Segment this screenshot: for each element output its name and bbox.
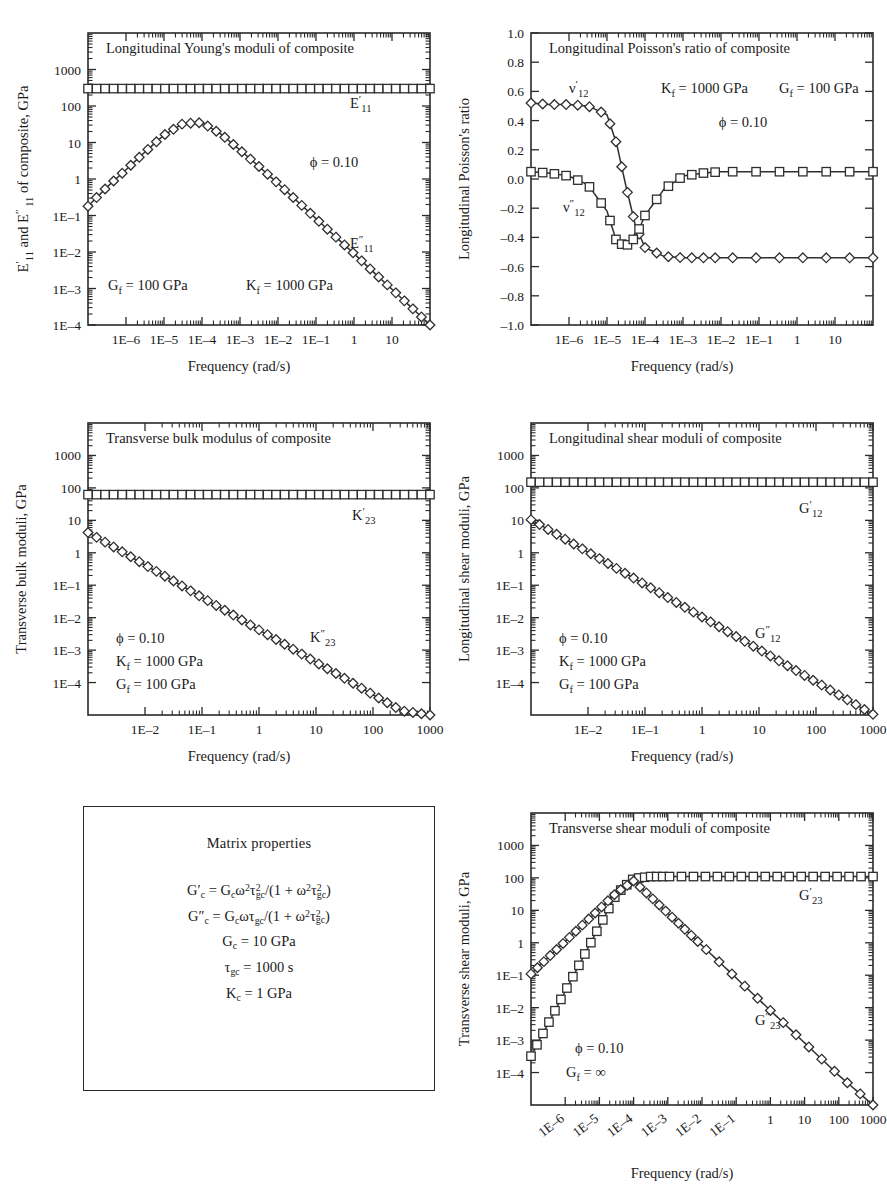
- data-point-marker: [562, 171, 570, 179]
- panel-transverse-bulk-modulus: 1E–21E–11101001000 10001001011E–11E–21E–…: [0, 390, 450, 780]
- svg-text:Longitudinal shear moduli, GPa: Longitudinal shear moduli, GPa: [456, 475, 472, 662]
- data-point-marker: [587, 478, 595, 486]
- panel-transverse-shear-moduli: 1E–61E–51E–41E–31E–21E–11101001000 10001…: [443, 780, 887, 1192]
- data-point-marker: [246, 84, 254, 92]
- x-tick-label: 1E–3: [226, 332, 255, 347]
- data-point-marker: [332, 84, 340, 92]
- data-point-marker: [400, 490, 408, 498]
- data-point-marker: [761, 872, 769, 880]
- data-point-marker: [797, 872, 805, 880]
- matrix-properties-box: Matrix properties G′c = Gcω2τ2gc/(1 + ω2…: [83, 806, 435, 1091]
- x-tick-label: 10: [828, 332, 842, 347]
- data-point-marker: [161, 84, 169, 92]
- data-point-marker: [715, 478, 723, 486]
- data-point-marker: [821, 872, 829, 880]
- data-point-marker: [857, 872, 865, 880]
- plot-title: Longitudinal shear moduli of composite: [549, 430, 782, 446]
- x-tick-label: 100: [363, 722, 384, 737]
- data-point-marker: [612, 478, 620, 486]
- data-point-marker: [280, 490, 288, 498]
- data-point-marker: [732, 478, 740, 486]
- data-point-marker: [340, 490, 348, 498]
- data-point-marker: [595, 478, 603, 486]
- y-tick-label: –0.2: [499, 201, 524, 216]
- data-point-marker: [229, 490, 237, 498]
- x-tick-label: 1E–1: [745, 332, 774, 347]
- data-point-marker: [84, 84, 92, 92]
- data-point-marker: [366, 84, 374, 92]
- x-axis-title: Frequency (rad/s): [188, 358, 291, 375]
- y-axis-title: Transverse shear moduli, GPa: [456, 871, 472, 1046]
- plot-svg: 1E–61E–51E–41E–31E–21E–1110 1.00.80.60.4…: [443, 0, 887, 390]
- data-point-marker: [728, 168, 736, 176]
- data-point-marker: [860, 478, 868, 486]
- data-point-marker: [822, 168, 830, 176]
- x-tick-label: 1E–2: [672, 1111, 704, 1140]
- y-tick-label: 1E–4: [496, 676, 525, 691]
- svg-text:Transverse shear moduli, GPa: Transverse shear moduli, GPa: [456, 871, 472, 1046]
- y-tick-label: 1: [517, 546, 524, 561]
- data-point-marker: [638, 478, 646, 486]
- y-tick-label: 1000: [54, 63, 81, 78]
- data-point-marker: [550, 170, 558, 178]
- data-point-marker: [332, 490, 340, 498]
- data-point-marker: [706, 478, 714, 486]
- x-tick-label: 10: [385, 332, 399, 347]
- data-point-marker: [127, 84, 135, 92]
- data-point-marker: [818, 478, 826, 486]
- y-tick-label: 1E–1: [53, 578, 82, 593]
- data-point-marker: [349, 84, 357, 92]
- plot-title: Longitudinal Poisson's ratio of composit…: [549, 40, 790, 56]
- data-point-marker: [664, 182, 672, 190]
- x-tick-label: 1E–1: [706, 1111, 738, 1140]
- data-point-marker: [289, 490, 297, 498]
- data-point-marker: [652, 195, 660, 203]
- data-point-marker: [144, 84, 152, 92]
- x-tick-label: 1E–4: [604, 1110, 636, 1140]
- plot-frame: [531, 423, 873, 715]
- data-point-marker: [152, 490, 160, 498]
- equation-gc: Gc = 10 GPa: [84, 929, 434, 955]
- data-point-marker: [809, 478, 817, 486]
- y-tick-label: 1.0: [507, 26, 524, 41]
- x-tick-label: 10: [752, 722, 766, 737]
- data-point-marker: [383, 490, 391, 498]
- x-tick-label: 1000: [860, 722, 887, 737]
- x-tick-label: 1E–1: [302, 332, 331, 347]
- data-point-marker: [569, 972, 577, 980]
- data-point-marker: [323, 84, 331, 92]
- x-tick-label: 1E–5: [570, 1110, 602, 1140]
- x-tick-label: 1: [794, 332, 801, 347]
- data-point-marker: [127, 490, 135, 498]
- data-point-marker: [783, 478, 791, 486]
- x-tick-labels: 1E–21E–11101001000: [574, 722, 887, 737]
- y-tick-label: 1E–4: [496, 1066, 525, 1081]
- data-point-marker: [711, 168, 719, 176]
- data-point-marker: [204, 490, 212, 498]
- x-tick-label: 1E–1: [188, 722, 217, 737]
- data-point-marker: [621, 478, 629, 486]
- data-point-marker: [688, 171, 696, 179]
- y-tick-label: 1E–3: [496, 1033, 525, 1048]
- x-tick-label: 1E–2: [131, 722, 160, 737]
- data-point-marker: [775, 478, 783, 486]
- data-point-marker: [672, 478, 680, 486]
- panel-longitudinal-shear-moduli: 1E–21E–11101001000 10001001011E–11E–21E–…: [443, 390, 887, 780]
- data-point-marker: [775, 168, 783, 176]
- data-point-marker: [845, 168, 853, 176]
- annotation-phi: ϕ = 0.10: [719, 114, 767, 130]
- y-tick-labels: 10001001011E–11E–21E–31E–4: [53, 448, 82, 690]
- y-tick-label: 1: [74, 546, 81, 561]
- x-tick-label: 1: [256, 722, 263, 737]
- y-tick-label: 1000: [497, 838, 524, 853]
- data-point-marker: [221, 490, 229, 498]
- y-tick-label: 10: [68, 136, 82, 151]
- data-point-marker: [392, 84, 400, 92]
- y-tick-label: 1E–2: [496, 611, 525, 626]
- data-point-marker: [698, 478, 706, 486]
- data-point-marker: [357, 490, 365, 498]
- svg-text:ϕ = 0.10: ϕ = 0.10: [116, 630, 164, 646]
- data-point-marker: [229, 84, 237, 92]
- data-point-marker: [545, 1018, 553, 1026]
- y-tick-label: 0.2: [507, 143, 524, 158]
